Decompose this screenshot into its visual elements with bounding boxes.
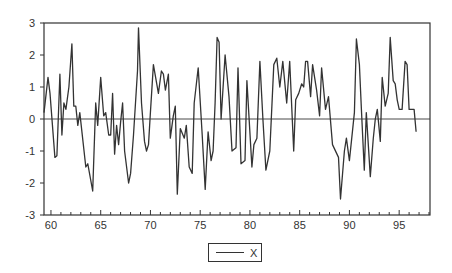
line-chart: 3210-1-2-3 6065707580859095 — [0, 0, 452, 240]
x-tick-label: 85 — [294, 219, 306, 231]
x-tick-label: 95 — [393, 219, 405, 231]
y-tick-label: 0 — [29, 113, 35, 125]
y-tick-label: -1 — [25, 145, 35, 157]
y-axis: 3210-1-2-3 — [25, 17, 44, 221]
x-tick-label: 70 — [144, 219, 156, 231]
y-tick-label: 3 — [29, 17, 35, 29]
x-tick-label: 80 — [244, 219, 256, 231]
series-x-line — [44, 28, 416, 199]
y-tick-label: 2 — [29, 49, 35, 61]
y-tick-label: 1 — [29, 81, 35, 93]
x-tick-label: 90 — [343, 219, 355, 231]
y-tick-label: -3 — [25, 209, 35, 221]
x-tick-label: 75 — [194, 219, 206, 231]
x-tick-label: 60 — [45, 219, 57, 231]
x-tick-label: 65 — [95, 219, 107, 231]
legend-line-swatch — [216, 252, 244, 253]
legend: X — [208, 243, 262, 262]
legend-label-x: X — [250, 247, 257, 259]
y-tick-label: -2 — [25, 177, 35, 189]
x-axis: 6065707580859095 — [45, 210, 429, 231]
